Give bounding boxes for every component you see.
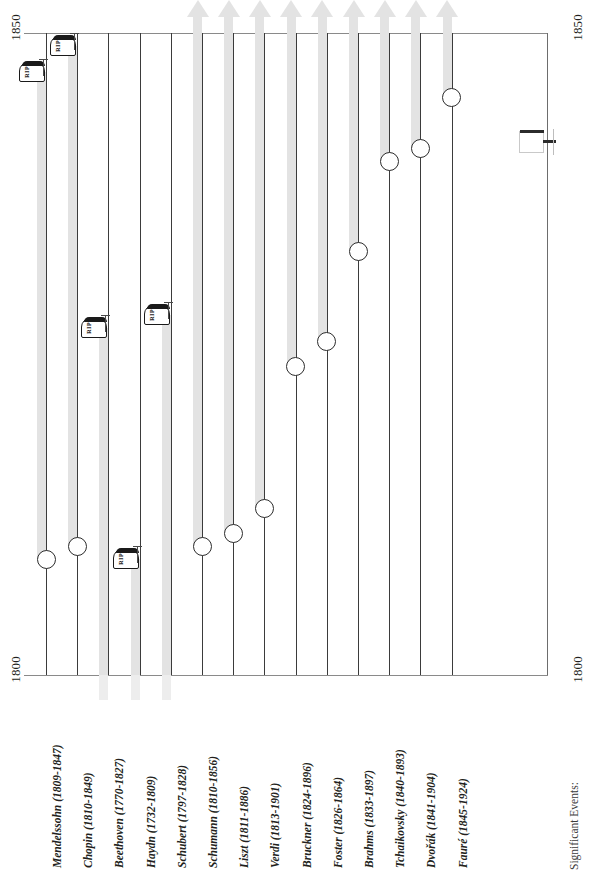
lifespan-bar-tchaikovsky: [380, 16, 389, 161]
composer-label-verdi: Verdi (1813-1901): [269, 783, 281, 868]
event-marker-cap: [520, 130, 544, 133]
axis-label-bottom-right: 1800: [570, 656, 586, 683]
lifespan-bar-faur-: [443, 16, 452, 97]
lane-line-beethoven: [108, 33, 109, 675]
lane-line-right-edge: [547, 33, 548, 675]
tombstone-crossbar: [70, 33, 79, 34]
tombstone-crossbar: [101, 315, 110, 316]
axis-label-bottom-left: 1800: [8, 656, 24, 683]
tombstone-label: RIP: [117, 553, 124, 565]
lifespan-bar-below-axis-beethoven: [99, 675, 108, 700]
arrow-up-icon-verdi: [249, 0, 271, 17]
lifespan-bar-schubert: [162, 315, 171, 675]
tombstone-crossbar: [164, 302, 173, 303]
lane-line-dvo-k: [420, 33, 421, 675]
arrow-up-icon-brahms: [343, 0, 365, 17]
lane-line-faur-: [452, 33, 453, 675]
arrow-up-icon-schumann: [187, 0, 209, 17]
composer-label-brahms: Brahms (1833-1897): [363, 770, 375, 868]
lane-line-bruckner: [296, 33, 297, 675]
birth-marker-mendelssohn[interactable]: [37, 550, 56, 569]
tombstone-crossbar: [39, 59, 48, 60]
birth-marker-liszt[interactable]: [224, 524, 243, 543]
arrow-up-icon-foster: [311, 0, 333, 17]
lifespan-bar-beethoven: [99, 328, 108, 675]
lane-line-schumann: [202, 33, 203, 675]
lifespan-bar-bruckner: [287, 16, 296, 367]
lane-line-mendelssohn: [46, 33, 47, 675]
birth-marker-brahms[interactable]: [349, 242, 368, 261]
composer-label-faur-: Fauré (1845-1924): [457, 778, 469, 868]
timeline-chart: 1850 1800 1850 1800 RIPRIPRIPRIPRIP Mend…: [0, 0, 591, 878]
birth-marker-chopin[interactable]: [68, 537, 87, 556]
tombstone-post: [137, 547, 138, 563]
composer-label-liszt: Liszt (1811-1886): [238, 786, 250, 868]
lane-line-brahms: [358, 33, 359, 675]
arrow-up-icon-faur-: [436, 0, 458, 17]
lifespan-bar-below-axis-haydn: [131, 675, 140, 700]
tombstone-label: RIP: [85, 322, 92, 334]
composer-label-foster: Foster (1826-1864): [332, 777, 344, 868]
composer-label-beethoven: Beethoven (1770-1827): [113, 758, 125, 868]
lane-line-haydn: [140, 33, 141, 675]
tombstone-label: RIP: [148, 309, 155, 321]
birth-marker-tchaikovsky[interactable]: [380, 152, 399, 171]
rip-tombstone-icon-beethoven: RIP: [81, 318, 108, 339]
lifespan-bar-dvo-k: [411, 16, 420, 149]
lane-line-chopin: [77, 33, 78, 675]
birth-marker-bruckner[interactable]: [286, 357, 305, 376]
tombstone-label: RIP: [54, 40, 61, 52]
rip-tombstone-icon-chopin: RIP: [50, 36, 77, 57]
lifespan-bar-mendelssohn: [37, 72, 46, 560]
rip-tombstone-icon-schubert: RIP: [144, 305, 171, 326]
event-marker-arm: [543, 140, 556, 143]
composer-label-dvo-k: Dvořák (1841-1904): [425, 773, 437, 869]
birth-marker-verdi[interactable]: [255, 499, 274, 518]
rip-tombstone-icon-haydn: RIP: [113, 549, 140, 570]
arrow-up-icon-bruckner: [280, 0, 302, 17]
lane-line-liszt: [233, 33, 234, 675]
lane-line-verdi: [264, 33, 265, 675]
lifespan-bar-verdi: [255, 16, 264, 508]
arrow-up-icon-dvo-k: [405, 0, 427, 17]
lifespan-bar-foster: [318, 16, 327, 341]
lifespan-bar-below-axis-schubert: [162, 675, 171, 700]
axis-label-top-right: 1850: [570, 14, 586, 41]
composer-label-schubert: Schubert (1797-1828): [176, 765, 188, 868]
birth-marker-dvo-k[interactable]: [411, 139, 430, 158]
composer-label-tchaikovsky: Tchaikovsky (1840-1893): [394, 749, 406, 868]
composer-label-schumann: Schumann (1810-1856): [207, 756, 219, 868]
arrow-up-icon-tchaikovsky: [374, 0, 396, 17]
lifespan-bar-chopin: [68, 46, 77, 547]
composer-label-chopin: Chopin (1810-1849): [82, 772, 94, 868]
birth-marker-foster[interactable]: [317, 332, 336, 351]
tombstone-post: [105, 316, 106, 332]
composer-label-mendelssohn: Mendelssohn (1809-1847): [51, 744, 63, 868]
event-marker-box: [519, 131, 544, 153]
event-marker-tick: [553, 129, 554, 155]
lifespan-bar-haydn: [131, 559, 140, 675]
birth-marker-schumann[interactable]: [193, 537, 212, 556]
axis-label-top-left: 1850: [8, 14, 24, 41]
composer-label-haydn: Haydn (1732-1809): [145, 776, 157, 868]
rip-tombstone-icon-mendelssohn: RIP: [19, 62, 46, 83]
significant-events-label: Significant Events:: [568, 782, 580, 870]
lifespan-bar-schumann: [193, 16, 202, 547]
tombstone-post: [168, 303, 169, 319]
lane-line-foster: [327, 33, 328, 675]
tombstone-post: [43, 60, 44, 76]
arrow-up-icon-liszt: [218, 0, 240, 17]
tombstone-post: [74, 34, 75, 50]
lifespan-bar-brahms: [349, 16, 358, 251]
lifespan-bar-liszt: [224, 16, 233, 534]
lane-line-tchaikovsky: [389, 33, 390, 675]
tombstone-label: RIP: [23, 66, 30, 78]
composer-label-bruckner: Bruckner (1824-1896): [301, 762, 313, 868]
birth-marker-faur-[interactable]: [442, 88, 461, 107]
lane-line-schubert: [171, 33, 172, 675]
tombstone-top-shadow: [22, 61, 45, 66]
tombstone-crossbar: [133, 546, 142, 547]
